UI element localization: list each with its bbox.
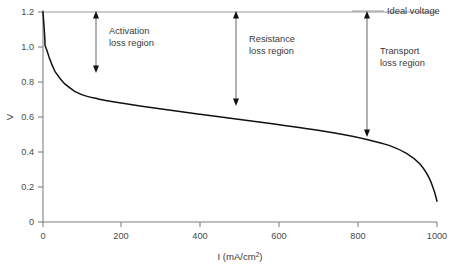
y-tick-label-0-2: 0.2 bbox=[21, 182, 34, 192]
x-tick-marks bbox=[43, 222, 437, 227]
y-tick-labels: 0 0.2 0.4 0.6 0.8 1.0 1.2 bbox=[21, 7, 34, 227]
y-tick-marks bbox=[38, 12, 43, 222]
y-tick-label-1-0: 1.0 bbox=[21, 42, 34, 52]
ideal-voltage-label: Ideal voltage bbox=[387, 6, 440, 16]
x-axis-title: I (mA/cm2) bbox=[217, 251, 262, 263]
activation-loss-arrow bbox=[93, 11, 99, 73]
y-tick-label-0-6: 0.6 bbox=[21, 112, 34, 122]
resistance-loss-arrow bbox=[233, 11, 239, 106]
y-tick-label-0-8: 0.8 bbox=[21, 77, 34, 87]
y-tick-label-0: 0 bbox=[29, 217, 34, 227]
resistance-loss-label-line1: Resistance bbox=[249, 34, 295, 44]
x-tick-labels: 0 200 400 600 800 1000 bbox=[40, 231, 447, 241]
x-tick-label-200: 200 bbox=[113, 231, 128, 241]
x-axis-title-close: ) bbox=[259, 251, 262, 262]
y-axis-title: V bbox=[4, 113, 15, 120]
x-tick-label-800: 800 bbox=[350, 231, 365, 241]
activation-loss-label-line1: Activation bbox=[109, 26, 149, 36]
x-tick-label-400: 400 bbox=[192, 231, 207, 241]
polarization-curve-line bbox=[43, 12, 437, 201]
activation-loss-label-line2: loss region bbox=[109, 38, 154, 48]
y-tick-label-1-2: 1.2 bbox=[21, 7, 34, 17]
transport-loss-label-line2: loss region bbox=[380, 58, 425, 68]
resistance-loss-label-line2: loss region bbox=[249, 46, 294, 56]
y-tick-label-0-4: 0.4 bbox=[21, 147, 34, 157]
transport-loss-arrow bbox=[364, 11, 370, 137]
x-tick-label-600: 600 bbox=[271, 231, 286, 241]
x-tick-label-0: 0 bbox=[40, 231, 45, 241]
polarization-curve-figure: 0 0.2 0.4 0.6 0.8 1.0 1.2 V 0 200 400 60… bbox=[0, 0, 453, 276]
x-axis-title-base: I (mA/cm bbox=[217, 251, 255, 262]
transport-loss-label-line1: Transport bbox=[380, 46, 420, 56]
x-tick-label-1000: 1000 bbox=[427, 231, 447, 241]
